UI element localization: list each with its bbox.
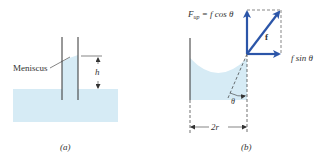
- caption-b: (b): [241, 142, 252, 152]
- width-label: 2r: [211, 122, 220, 132]
- fsin-label: f sin θ: [291, 53, 314, 63]
- force-label: f: [265, 32, 269, 42]
- theta-label: θ: [231, 97, 235, 106]
- caption-a: (a): [60, 142, 71, 152]
- water-reservoir: [13, 89, 118, 122]
- fup-label: Fup = f cos θ: [187, 9, 234, 20]
- meniscus-label: Meniscus: [13, 63, 48, 73]
- meniscus-water: [190, 58, 247, 100]
- panel-a: Meniscus h (a): [13, 37, 118, 152]
- panel-b: θ Fup = f cos θ f f sin θ 2r (b): [187, 9, 314, 152]
- capillary-diagram: Meniscus h (a) θ Fup = f cos θ f f sin θ…: [0, 0, 329, 159]
- fup-eq: = f cos θ: [200, 9, 235, 19]
- f-force-arrow: [247, 12, 279, 54]
- height-label: h: [95, 67, 100, 77]
